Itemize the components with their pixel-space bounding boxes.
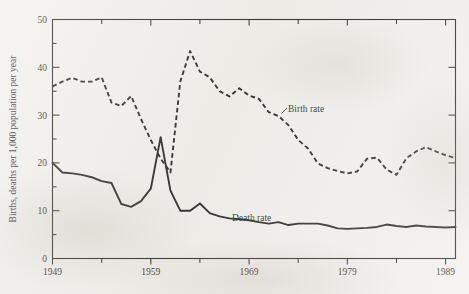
y-tick-label: 30 (38, 111, 48, 121)
y-tick-label: 20 (38, 158, 48, 168)
y-tick-label: 0 (42, 254, 47, 264)
x-axis-tick-labels: 1949 1959 1969 1979 1989 (43, 267, 455, 277)
axis-ticks (53, 20, 456, 265)
x-tick-label: 1979 (338, 267, 357, 277)
x-tick-label: 1959 (141, 267, 160, 277)
y-tick-label: 10 (38, 206, 48, 216)
x-tick-label: 1989 (436, 267, 455, 277)
birth-rate-label: Birth rate (288, 104, 324, 114)
birth-death-rate-chart: 0 10 20 30 40 50 1949 1959 1969 1979 198… (0, 0, 469, 294)
x-tick-label: 1969 (240, 267, 259, 277)
y-tick-label: 50 (38, 15, 48, 25)
y-tick-label: 40 (38, 63, 48, 73)
chart-page: 0 10 20 30 40 50 1949 1959 1969 1979 198… (0, 0, 469, 294)
y-axis-title: Births, deaths per 1,000 population per … (8, 55, 18, 223)
x-tick-label: 1949 (43, 267, 62, 277)
annotation-birth-rate: Birth rate (282, 104, 325, 114)
annotation-death-rate: Death rate (232, 213, 271, 223)
death-rate-label: Death rate (232, 213, 271, 223)
y-axis-tick-labels: 0 10 20 30 40 50 (38, 15, 48, 264)
series-line-birth-rate (53, 51, 456, 175)
